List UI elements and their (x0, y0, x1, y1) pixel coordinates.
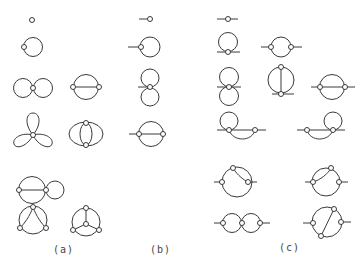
panel-c-diagrams (214, 17, 355, 239)
diagram-a5-three-leaf (14, 113, 53, 147)
diagram-b2-tadpole (128, 37, 160, 57)
panel-label-b: (b) (150, 244, 171, 255)
panel-b-diagrams (128, 17, 166, 147)
diagram-c12-diagonal-chord (303, 207, 351, 239)
diagram-a2-single-loop (22, 38, 43, 57)
feynman-diagram-figure (0, 0, 363, 269)
diagram-b1-leg-vertex (139, 17, 153, 22)
diagram-c2-tadpole-line (217, 33, 240, 55)
diagram-a7-sunset-with-loop (17, 177, 65, 204)
diagram-c8-tadpole-arc-right (297, 112, 345, 139)
panel-label-a: (a) (53, 244, 74, 255)
diagram-c5-vertical-chord (268, 65, 294, 97)
diagram-c4-double-tadpole-line (217, 68, 241, 106)
diagram-a4-sunset (71, 75, 102, 100)
panel-a-diagrams (14, 18, 104, 237)
diagram-a6-basketball (69, 121, 103, 148)
diagram-b4-sunset-leg (129, 122, 166, 147)
diagram-b3-double-tadpole (138, 69, 159, 106)
diagram-c7-tadpole-arc-left (217, 112, 266, 139)
diagram-c3-bubble (261, 37, 302, 57)
diagram-a1-single-vertex (30, 18, 35, 23)
diagram-c10-vertex-correction-right (305, 166, 348, 197)
diagram-c11-double-bubble-chain (214, 214, 270, 233)
diagram-c9-vertex-correction-left (214, 166, 257, 198)
diagram-c6-sunset-two-legs (311, 75, 355, 100)
diagram-a9-mercedes (71, 206, 102, 237)
diagram-c1-vertex-line (217, 17, 238, 22)
panel-label-c: (c) (279, 242, 300, 253)
diagram-a8-triangle (18, 205, 49, 235)
diagram-a3-figure-eight (14, 79, 53, 98)
